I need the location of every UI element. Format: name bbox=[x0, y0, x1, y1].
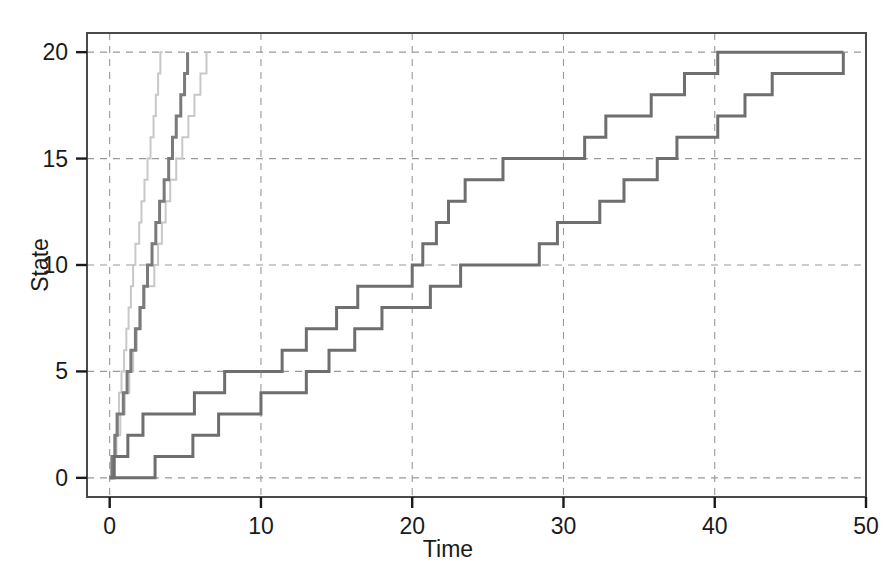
y-tick-label: 15 bbox=[24, 147, 68, 170]
plot-area bbox=[0, 0, 896, 574]
x-axis-title: Time bbox=[423, 538, 473, 561]
y-tick-label: 20 bbox=[24, 41, 68, 64]
chart-figure: 05101520 01020304050 Time State bbox=[0, 0, 896, 574]
y-tick-label: 0 bbox=[24, 466, 68, 489]
x-tick-label: 0 bbox=[103, 515, 116, 538]
x-tick-label: 40 bbox=[702, 515, 728, 538]
y-axis-title: State bbox=[29, 238, 52, 292]
y-tick-label: 5 bbox=[24, 360, 68, 383]
x-tick-label: 30 bbox=[551, 515, 577, 538]
axis-ticks bbox=[76, 52, 866, 508]
x-tick-label: 50 bbox=[853, 515, 879, 538]
x-tick-label: 10 bbox=[248, 515, 274, 538]
x-tick-label: 20 bbox=[399, 515, 425, 538]
